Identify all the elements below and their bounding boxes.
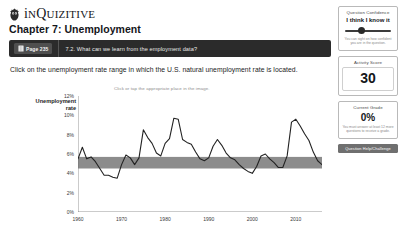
activity-score-title: Activity Score <box>342 60 394 65</box>
current-grade-card: Current Grade 0% You must answer at leas… <box>338 101 398 139</box>
y-axis-tick-label: 6% <box>60 151 74 157</box>
confidence-value: I think I know it <box>342 17 394 23</box>
y-axis-tick-label: 8% <box>60 132 74 138</box>
brand-name: iNQUIZITIVE <box>24 6 95 22</box>
x-axis-tick-label: 1990 <box>196 216 222 222</box>
chart-container[interactable]: Click or tap the appropriate place in th… <box>10 82 328 230</box>
activity-score-value: 30 <box>343 71 393 86</box>
y-axis-tick-label: 0% <box>60 209 74 215</box>
y-axis-tick-label: 10% <box>60 112 74 118</box>
page-badge-label: Page 235 <box>26 46 48 52</box>
inquizitive-page: iNQUIZITIVE Chapter 7: Unemployment Page… <box>0 0 405 240</box>
y-axis-title: Unemploymentrate <box>30 98 76 112</box>
sidebar-rail: Question Confidence I think I know it Yo… <box>338 6 398 153</box>
question-prompt: Click on the unemployment rate range in … <box>10 66 298 73</box>
owl-logo-icon <box>9 8 20 21</box>
x-axis-tick-label: 2010 <box>283 216 309 222</box>
confidence-title: Question Confidence <box>342 10 394 15</box>
activity-score-box: 30 <box>342 67 394 91</box>
unemployment-line-chart[interactable] <box>78 96 322 212</box>
page-title: Chapter 7: Unemployment <box>9 23 141 35</box>
confidence-slider[interactable] <box>345 26 391 35</box>
question-help-challenge-button[interactable]: Question Help/Challenge <box>338 144 398 153</box>
chart-hint-text: Click or tap the appropriate place in th… <box>114 86 210 91</box>
activity-score-card: Activity Score 30 <box>338 56 398 96</box>
question-bar: Page 235 7.2. What can we learn from the… <box>9 40 331 57</box>
confidence-note: You can sight on how confident you are i… <box>342 37 394 46</box>
brand-logo: iNQUIZITIVE <box>9 6 95 22</box>
slider-thumb[interactable] <box>358 27 365 34</box>
current-grade-value: 0% <box>342 112 394 123</box>
x-axis-tick-label: 1960 <box>65 216 91 222</box>
page-reference-badge[interactable]: Page 235 <box>14 43 52 54</box>
book-icon <box>18 45 24 52</box>
plot-area[interactable] <box>78 96 322 212</box>
y-axis-tick-label: 4% <box>60 170 74 176</box>
slider-track[interactable] <box>345 30 391 32</box>
question-confidence-card: Question Confidence I think I know it Yo… <box>338 6 398 51</box>
current-grade-title: Current Grade <box>342 105 394 110</box>
y-axis-tick-label: 2% <box>60 190 74 196</box>
x-axis-tick-label: 1980 <box>152 216 178 222</box>
x-axis-tick-label: 1970 <box>109 216 135 222</box>
divider <box>58 40 59 57</box>
y-axis-tick-label: 12% <box>60 93 74 99</box>
x-axis-tick-label: 2000 <box>239 216 265 222</box>
current-grade-note: You must answer at least 12 more questio… <box>342 125 394 134</box>
question-text: 7.2. What can we learn from the employme… <box>65 46 197 52</box>
